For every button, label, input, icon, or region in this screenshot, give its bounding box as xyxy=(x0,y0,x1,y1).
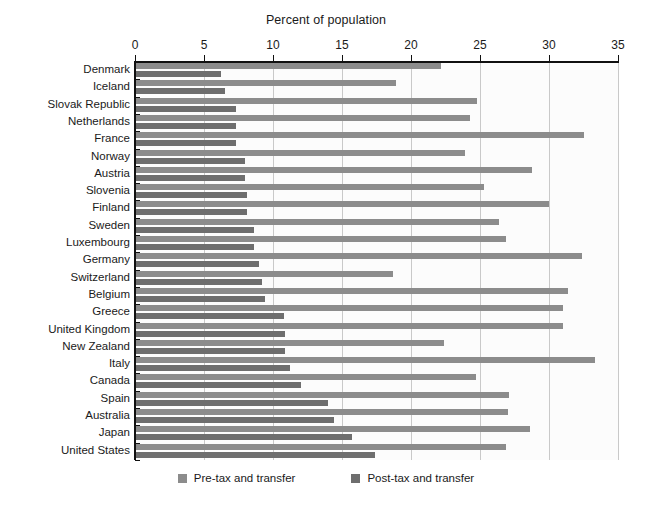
bar-pre-tax xyxy=(135,63,441,69)
category-tick xyxy=(135,391,140,392)
category-label: United States xyxy=(4,444,130,456)
bar-pre-tax xyxy=(135,132,584,138)
bar-row xyxy=(135,97,618,114)
category-label: Italy xyxy=(4,357,130,369)
bar-post-tax xyxy=(135,296,265,302)
chart-title: Percent of population xyxy=(0,13,652,27)
category-tick xyxy=(135,79,140,80)
category-label: Greece xyxy=(4,305,130,317)
category-tick xyxy=(135,166,140,167)
bar-pre-tax xyxy=(135,115,470,121)
plot-area xyxy=(135,62,618,460)
bar-post-tax xyxy=(135,313,284,319)
bar-post-tax xyxy=(135,261,259,267)
bar-row xyxy=(135,62,618,79)
legend-swatch-icon xyxy=(178,474,187,483)
bar-row xyxy=(135,114,618,131)
bar-pre-tax xyxy=(135,392,509,398)
bar-post-tax xyxy=(135,382,301,388)
category-tick xyxy=(135,252,140,253)
bar-post-tax xyxy=(135,140,236,146)
x-tick-label: 15 xyxy=(335,38,348,52)
x-tick-label: 10 xyxy=(266,38,279,52)
bar-pre-tax xyxy=(135,219,499,225)
category-tick xyxy=(135,149,140,150)
bar-post-tax xyxy=(135,244,254,250)
bar-pre-tax xyxy=(135,184,484,190)
x-tick-mark xyxy=(618,55,619,62)
bar-pre-tax xyxy=(135,150,465,156)
bar-post-tax xyxy=(135,227,254,233)
category-label: Slovenia xyxy=(4,184,130,196)
category-label: Austria xyxy=(4,167,130,179)
bar-pre-tax xyxy=(135,340,444,346)
bar-pre-tax xyxy=(135,201,549,207)
y-axis-spine xyxy=(134,61,136,460)
bar-row xyxy=(135,408,618,425)
legend-item[interactable]: Pre-tax and transfer xyxy=(178,472,296,484)
legend-item[interactable]: Post-tax and transfer xyxy=(351,472,474,484)
bar-row xyxy=(135,443,618,460)
bar-post-tax xyxy=(135,123,236,129)
x-tick-mark xyxy=(411,55,412,62)
category-label: Finland xyxy=(4,201,130,213)
x-tick-label: 25 xyxy=(473,38,486,52)
chart-container: Percent of population 05101520253035 Den… xyxy=(0,0,652,507)
bar-row xyxy=(135,131,618,148)
bar-row xyxy=(135,391,618,408)
bar-post-tax xyxy=(135,434,352,440)
category-label: Norway xyxy=(4,150,130,162)
category-label: Canada xyxy=(4,374,130,386)
bar-pre-tax xyxy=(135,374,476,380)
category-tick xyxy=(135,443,140,444)
bar-post-tax xyxy=(135,331,285,337)
category-tick xyxy=(135,356,140,357)
bar-post-tax xyxy=(135,175,245,181)
x-tick-label: 20 xyxy=(404,38,417,52)
category-label: Iceland xyxy=(4,80,130,92)
bar-row xyxy=(135,270,618,287)
bar-row xyxy=(135,235,618,252)
bar-pre-tax xyxy=(135,167,532,173)
category-label: Slovak Republic xyxy=(4,98,130,110)
bar-row xyxy=(135,304,618,321)
bar-pre-tax xyxy=(135,323,563,329)
x-tick-mark xyxy=(204,55,205,62)
bar-post-tax xyxy=(135,88,225,94)
category-label: United Kingdom xyxy=(4,323,130,335)
category-tick xyxy=(135,339,140,340)
category-tick xyxy=(135,408,140,409)
bar-pre-tax xyxy=(135,444,506,450)
category-label: Australia xyxy=(4,409,130,421)
category-tick xyxy=(135,460,140,461)
bar-row xyxy=(135,287,618,304)
category-tick xyxy=(135,97,140,98)
category-label: Sweden xyxy=(4,219,130,231)
bar-post-tax xyxy=(135,365,290,371)
bar-pre-tax xyxy=(135,288,568,294)
bar-row xyxy=(135,200,618,217)
bar-row xyxy=(135,183,618,200)
chart-legend: Pre-tax and transferPost-tax and transfe… xyxy=(0,472,652,484)
bar-row xyxy=(135,252,618,269)
bar-pre-tax xyxy=(135,236,506,242)
category-label: Belgium xyxy=(4,288,130,300)
x-tick-mark xyxy=(273,55,274,62)
bar-post-tax xyxy=(135,348,285,354)
category-tick xyxy=(135,373,140,374)
bar-row xyxy=(135,356,618,373)
bar-pre-tax xyxy=(135,409,508,415)
x-tick-mark xyxy=(549,55,550,62)
bar-post-tax xyxy=(135,417,334,423)
category-tick xyxy=(135,131,140,132)
bar-row xyxy=(135,373,618,390)
bar-post-tax xyxy=(135,71,221,77)
bar-row xyxy=(135,339,618,356)
category-tick xyxy=(135,322,140,323)
legend-label: Post-tax and transfer xyxy=(367,472,474,484)
x-tick-label: 30 xyxy=(542,38,555,52)
category-label: Germany xyxy=(4,253,130,265)
category-label: Spain xyxy=(4,392,130,404)
bar-pre-tax xyxy=(135,426,530,432)
gridline xyxy=(618,62,619,460)
